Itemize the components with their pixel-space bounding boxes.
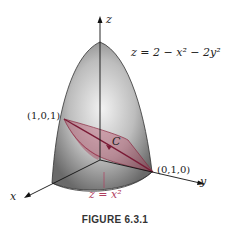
x-axis-label: x bbox=[10, 190, 16, 203]
surface-equation: z = 2 − x² − 2y² bbox=[131, 46, 221, 59]
figure-caption: FIGURE 6.3.1 bbox=[0, 214, 230, 225]
point-0-1-0-label: (0,1,0) bbox=[157, 164, 190, 175]
y-axis-label: y bbox=[200, 175, 206, 188]
figure: z z = 2 − x² − 2y² (1,0,1) C (0,1,0) y x… bbox=[0, 0, 230, 237]
cylinder-equation: z = x² bbox=[89, 188, 122, 201]
point-1-0-1-label: (1,0,1) bbox=[27, 110, 60, 121]
curve-c-label: C bbox=[112, 135, 120, 148]
z-axis-label: z bbox=[106, 13, 112, 26]
